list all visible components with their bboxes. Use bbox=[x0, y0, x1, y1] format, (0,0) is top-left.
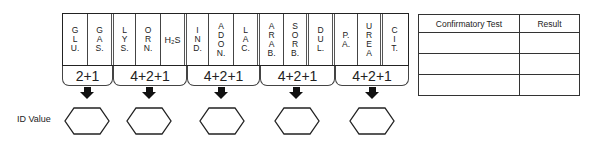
id-value-label: ID Value bbox=[17, 114, 51, 124]
confirmatory-test-table: Confirmatory Test Result bbox=[418, 14, 580, 96]
table-row bbox=[419, 33, 580, 54]
header-confirmatory-test: Confirmatory Test bbox=[419, 15, 520, 33]
id-value-hexagon[interactable] bbox=[126, 107, 172, 135]
cell-label-char: S. bbox=[120, 44, 128, 53]
cell-orn: ORN. bbox=[136, 14, 161, 65]
id-value-hexagon[interactable] bbox=[64, 107, 110, 135]
cell-label: ADON. bbox=[217, 22, 226, 58]
test-cell[interactable] bbox=[419, 33, 520, 54]
header-result: Result bbox=[520, 15, 580, 33]
cell-glu: GLU. bbox=[63, 14, 88, 65]
cell-gas: GAS. bbox=[88, 14, 114, 65]
id-value-hexagon[interactable] bbox=[274, 107, 320, 135]
id-value-hexagon[interactable] bbox=[199, 107, 245, 135]
cell-label: DUL. bbox=[317, 26, 324, 53]
cell-label-char: A. bbox=[342, 40, 350, 49]
id-value-hexagon[interactable] bbox=[349, 107, 395, 135]
cell-sorb: SORB. bbox=[284, 14, 309, 65]
group-5: 4+2+1 bbox=[335, 66, 409, 86]
result-cell[interactable] bbox=[520, 33, 580, 54]
cell-label-char: B. bbox=[291, 49, 299, 58]
cell-label: UREA bbox=[366, 22, 372, 58]
cell-cit: CIT. bbox=[383, 14, 406, 65]
cell-label: SORB. bbox=[291, 22, 299, 58]
result-cell[interactable] bbox=[520, 75, 580, 96]
cell-lys: LYS. bbox=[114, 14, 136, 65]
cell-adon: ADON. bbox=[209, 14, 234, 65]
cell-label-char: U. bbox=[71, 44, 80, 53]
cell-label: GLU. bbox=[71, 26, 80, 53]
group-4: 4+2+1 bbox=[260, 66, 335, 86]
cell-label: LAC. bbox=[241, 26, 250, 53]
cell-ind: IND. bbox=[187, 14, 209, 65]
group-row: 2+1 4+2+1 4+2+1 4+2+1 4+2+1 bbox=[62, 66, 409, 86]
cell-label-char: T. bbox=[391, 44, 398, 53]
cell-label: H₂S bbox=[165, 35, 181, 45]
cell-label: GAS. bbox=[95, 26, 103, 53]
table-row bbox=[419, 75, 580, 96]
group-2: 4+2+1 bbox=[113, 66, 187, 86]
test-cell[interactable] bbox=[419, 75, 520, 96]
result-cell[interactable] bbox=[520, 54, 580, 75]
test-strip: GLU. GAS. LYS. ORN. H₂S IND. ADON. LAC. … bbox=[62, 13, 409, 66]
cell-label: LYS. bbox=[120, 26, 128, 53]
cell-urea: UREA bbox=[358, 14, 383, 65]
group-3: 4+2+1 bbox=[187, 66, 260, 86]
cell-label-char: N. bbox=[217, 49, 226, 58]
table-row bbox=[419, 54, 580, 75]
cell-label: P.A. bbox=[342, 31, 350, 49]
cell-label-char: L. bbox=[317, 44, 324, 53]
cell-label: ARAB. bbox=[267, 22, 275, 58]
cell-label: CIT. bbox=[391, 26, 398, 53]
test-cell[interactable] bbox=[419, 54, 520, 75]
cell-label: IND. bbox=[193, 26, 202, 53]
cell-lac: LAC. bbox=[234, 14, 260, 65]
cell-label-char: A bbox=[366, 49, 372, 58]
cell-label: ORN. bbox=[144, 26, 153, 53]
cell-arab: ARAB. bbox=[260, 14, 284, 65]
cell-label-char: D. bbox=[193, 44, 202, 53]
cell-label-char: C. bbox=[241, 44, 250, 53]
cell-label-char: N. bbox=[144, 44, 153, 53]
cell-label-char: B. bbox=[267, 49, 275, 58]
cell-pa: P.A. bbox=[335, 14, 358, 65]
group-1: 2+1 bbox=[62, 66, 113, 86]
cell-h2s: H₂S bbox=[161, 14, 187, 65]
cell-label-char: S. bbox=[95, 44, 103, 53]
cell-dul: DUL. bbox=[309, 14, 335, 65]
